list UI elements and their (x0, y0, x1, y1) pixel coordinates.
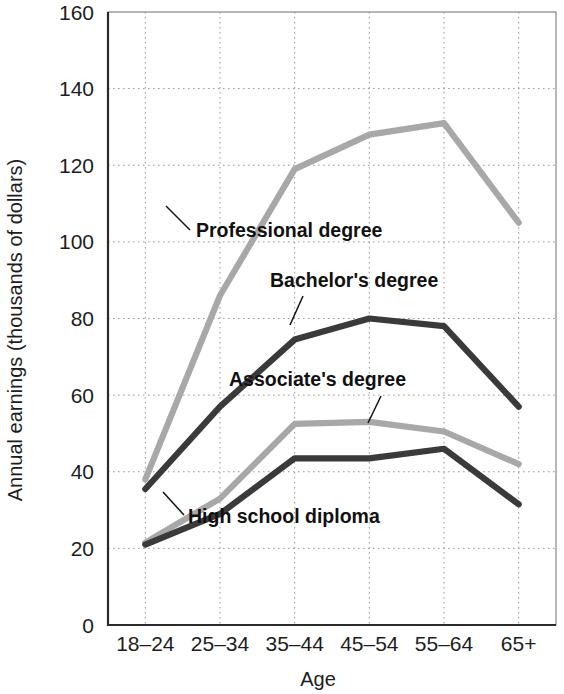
x-tick-label: 25–34 (191, 632, 250, 655)
y-tick-label: 0 (82, 614, 94, 637)
x-tick-label: 65+ (501, 632, 537, 655)
y-tick-label: 20 (71, 537, 94, 560)
series-annotation-associate-s-degree: Associate's degree (229, 368, 406, 390)
series-annotation-high-school-diploma: High school diploma (188, 505, 380, 527)
chart-container: 020406080100120140160 18–2425–3435–4445–… (0, 0, 564, 694)
leader-line (290, 296, 303, 325)
y-tick-label: 60 (71, 384, 94, 407)
leader-line (163, 492, 184, 515)
earnings-by-age-line-chart: 020406080100120140160 18–2425–3435–4445–… (0, 0, 564, 694)
series-annotation-labels: Professional degreeBachelor's degreeAsso… (188, 219, 438, 527)
x-tick-label: 35–44 (265, 632, 324, 655)
y-tick-label: 120 (59, 154, 94, 177)
y-tick-label: 140 (59, 77, 94, 100)
y-tick-label: 100 (59, 230, 94, 253)
y-tick-label: 80 (71, 307, 94, 330)
series-annotation-professional-degree: Professional degree (196, 219, 383, 241)
x-tick-label: 18–24 (116, 632, 175, 655)
data-series-lines (145, 123, 518, 544)
leader-line (368, 396, 381, 423)
x-axis-title: Age (300, 668, 336, 690)
x-axis-tick-labels: 18–2425–3435–4445–5455–6465+ (116, 632, 536, 655)
series-line-high-school-diploma (145, 449, 518, 545)
y-axis-tick-labels: 020406080100120140160 (59, 1, 94, 637)
y-tick-label: 160 (59, 1, 94, 24)
x-tick-label: 45–54 (340, 632, 399, 655)
y-tick-label: 40 (71, 460, 94, 483)
leader-line (166, 206, 190, 230)
x-tick-label: 55–64 (415, 632, 474, 655)
y-axis-title: Annual earnings (thousands of dollars) (4, 159, 26, 501)
series-annotation-bachelor-s-degree: Bachelor's degree (270, 269, 438, 291)
vertical-gridlines (145, 12, 518, 625)
